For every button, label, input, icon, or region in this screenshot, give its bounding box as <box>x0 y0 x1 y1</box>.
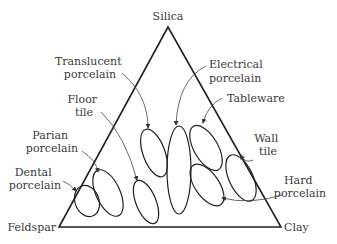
region-electrical-porcelain <box>167 126 191 214</box>
label-floor-tile: Floor tile <box>67 93 100 119</box>
vertex-label-feldspar: Feldspar <box>7 221 56 234</box>
region-floor-tile <box>128 177 164 227</box>
leader-electrical <box>176 66 206 125</box>
leader-tableware <box>203 98 222 123</box>
label-translucent-porcelain: Translucent porcelain <box>55 55 125 81</box>
vertex-label-clay: Clay <box>284 221 309 234</box>
leader-floor-tile <box>101 112 137 180</box>
label-hard-porcelain: Hard porcelain <box>274 174 326 200</box>
region-wall-tile <box>220 150 263 205</box>
label-dental-porcelain: Dental porcelain <box>9 166 61 192</box>
leader-translucent <box>122 73 148 128</box>
label-parian-porcelain: Parian porcelain <box>26 129 78 155</box>
region-parian-porcelain <box>87 165 130 220</box>
label-electrical-porcelain: Electrical porcelain <box>209 58 266 85</box>
vertex-label-silica: Silica <box>153 10 184 23</box>
label-tableware: Tableware <box>227 92 285 105</box>
label-wall-tile: Wall tile <box>254 132 281 158</box>
leader-dental <box>63 181 76 191</box>
ternary-diagram: Silica Feldspar Clay Translucent porcela… <box>0 0 337 244</box>
